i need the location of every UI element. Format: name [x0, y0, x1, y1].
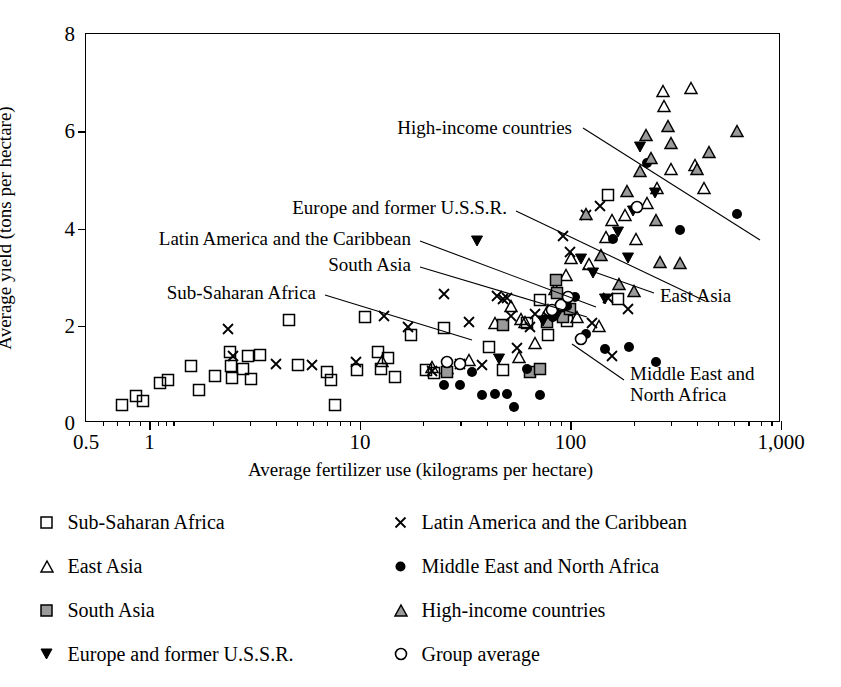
- data-point-cross-x: [454, 357, 467, 370]
- y-tick-label: 8: [65, 24, 76, 45]
- data-point-open-triangle-up: [425, 360, 439, 373]
- data-point-filled-circle: [547, 311, 560, 324]
- legend-item-label: High-income countries: [422, 599, 606, 622]
- data-point-open-square: [611, 292, 624, 305]
- legend-item-1[interactable]: Latin America and the Caribbean: [388, 500, 808, 544]
- data-point-cross-x: [426, 364, 439, 377]
- legend-item-label: East Asia: [68, 555, 143, 578]
- data-point-open-triangle-up: [582, 257, 596, 270]
- open-triangle-up-icon: [34, 560, 60, 573]
- data-point-open-triangle-up: [564, 251, 578, 264]
- legend-item-7[interactable]: Group average: [388, 632, 808, 676]
- data-point-open-square: [388, 370, 401, 383]
- data-point-open-square: [321, 366, 334, 379]
- open-circle-icon: [388, 647, 414, 661]
- data-point-filled-circle: [508, 400, 521, 413]
- data-point-cross-x: [529, 308, 542, 321]
- data-point-open-square: [224, 346, 237, 359]
- y-tick-label: 6: [65, 121, 76, 142]
- x-minor-tick-mark: [140, 421, 141, 426]
- data-point-open-square: [115, 399, 128, 412]
- legend-item-5[interactable]: High-income countries: [388, 588, 808, 632]
- data-point-open-triangle-up: [514, 312, 528, 325]
- data-point-open-square: [428, 366, 441, 379]
- data-point-open-square: [236, 363, 249, 376]
- annotation-middle-east: Middle East andNorth Africa: [630, 364, 755, 405]
- data-point-filled-circle: [579, 327, 592, 340]
- annotation-high-income: High-income countries: [397, 118, 572, 139]
- data-point-open-triangle-up: [656, 85, 670, 98]
- data-point-open-square: [328, 399, 341, 412]
- data-point-filled-triangle-down: [634, 141, 647, 153]
- x-minor-tick-mark: [173, 421, 174, 426]
- data-point-cross-x: [556, 230, 569, 243]
- data-point-filled-gray-triangle-up: [639, 129, 653, 142]
- legend-item-2[interactable]: East Asia: [34, 544, 364, 588]
- data-point-cross-x: [601, 291, 614, 304]
- data-point-cross-x: [593, 200, 606, 213]
- legend-item-0[interactable]: Sub-Saharan Africa: [34, 500, 364, 544]
- annotation-europe-ussr: Europe and former U.S.S.R.: [292, 198, 507, 219]
- data-point-filled-gray-square: [441, 366, 454, 379]
- x-minor-tick-mark: [313, 421, 314, 426]
- data-point-open-circle: [453, 357, 467, 371]
- x-minor-tick-mark: [340, 421, 341, 426]
- data-point-filled-gray-triangle-up: [612, 278, 626, 291]
- data-point-open-square: [382, 351, 395, 364]
- data-point-filled-gray-triangle-up: [702, 145, 716, 158]
- filled-gray-square-icon: [34, 604, 60, 617]
- data-point-open-circle: [554, 298, 568, 312]
- data-point-filled-gray-triangle-up: [661, 120, 675, 133]
- data-point-open-square: [560, 314, 573, 327]
- data-point-filled-gray-square: [497, 318, 510, 331]
- data-point-filled-triangle-down: [587, 267, 600, 279]
- x-minor-tick-mark: [158, 421, 159, 426]
- data-point-open-square: [282, 313, 295, 326]
- data-point-filled-circle: [489, 387, 502, 400]
- data-point-open-square: [405, 328, 418, 341]
- data-point-open-triangle-up: [657, 99, 671, 112]
- data-point-filled-gray-triangle-up: [644, 151, 658, 164]
- data-point-cross-x: [270, 357, 283, 370]
- data-point-filled-circle: [475, 388, 488, 401]
- legend-item-4[interactable]: South Asia: [34, 588, 364, 632]
- data-point-filled-circle: [534, 388, 547, 401]
- y-tick-label: 4: [65, 218, 76, 239]
- data-point-open-triangle-up: [570, 310, 584, 323]
- data-point-cross-x: [437, 288, 450, 301]
- data-point-open-triangle-up: [518, 315, 532, 328]
- data-point-open-square: [534, 294, 547, 307]
- data-point-open-triangle-up: [605, 213, 619, 226]
- legend-item-3[interactable]: Middle East and North Africa: [388, 544, 808, 588]
- data-point-open-square: [419, 363, 432, 376]
- data-point-filled-triangle-down: [471, 235, 484, 247]
- y-tick-label: 2: [65, 315, 76, 336]
- data-point-cross-x: [491, 289, 504, 302]
- x-minor-tick-mark: [718, 421, 719, 426]
- legend-item-label: Sub-Saharan Africa: [68, 511, 225, 534]
- data-point-filled-circle: [599, 343, 612, 356]
- x-minor-tick-mark: [166, 421, 167, 426]
- x-major-tick-mark: [149, 421, 150, 430]
- data-point-cross-x: [586, 317, 599, 330]
- x-major-tick-mark: [570, 421, 571, 430]
- data-point-open-square: [226, 371, 239, 384]
- x-minor-tick-mark: [671, 421, 672, 426]
- data-point-filled-gray-triangle-up: [673, 256, 687, 269]
- x-tick-label: 1,000: [757, 432, 804, 453]
- legend-item-6[interactable]: Europe and former U.S.S.R.: [34, 632, 364, 676]
- x-minor-tick-mark: [761, 421, 762, 426]
- data-point-cross-x: [579, 208, 592, 221]
- data-point-filled-circle: [465, 365, 478, 378]
- annotation-line: High-income countries: [397, 118, 572, 139]
- data-point-filled-gray-triangle-up: [579, 207, 593, 220]
- data-point-cross-x: [541, 310, 554, 323]
- x-tick-label: 0.5: [73, 432, 99, 453]
- legend-item-label: Europe and former U.S.S.R.: [68, 643, 294, 666]
- annotation-south-asia: South Asia: [328, 255, 411, 276]
- x-minor-tick-mark: [524, 421, 525, 426]
- data-point-filled-gray-square: [534, 362, 547, 375]
- data-point-filled-circle: [640, 156, 653, 169]
- data-point-open-square: [153, 376, 166, 389]
- data-point-filled-circle: [607, 233, 620, 246]
